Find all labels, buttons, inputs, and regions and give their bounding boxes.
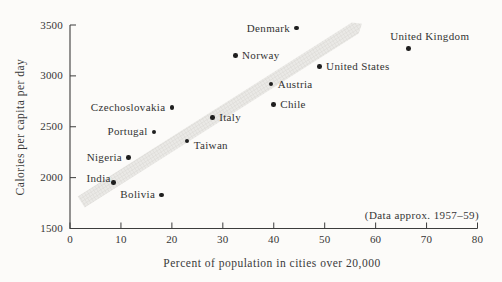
x-tick-label-20: 20 <box>166 233 177 246</box>
x-tick-label-60: 60 <box>370 233 381 246</box>
data-point-united-kingdom <box>406 46 411 51</box>
x-tick-label-70: 70 <box>421 233 432 246</box>
country-label-austria: Austria <box>278 78 313 91</box>
x-axis-title: Percent of population in cities over 20,… <box>163 257 380 269</box>
y-tick-label-1500: 1500 <box>40 222 63 235</box>
country-label-chile: Chile <box>280 98 306 111</box>
country-label-denmark: Denmark <box>247 22 290 35</box>
data-note: (Data approx. 1957–59) <box>365 209 479 221</box>
x-tick-label-0: 0 <box>67 233 73 246</box>
data-point-bolivia <box>159 193 164 198</box>
country-label-bolivia: Bolivia <box>120 188 155 201</box>
data-point-chile <box>271 102 276 107</box>
data-point-india <box>111 180 116 185</box>
data-point-italy <box>210 115 215 120</box>
y-tick-label-3500: 3500 <box>40 19 63 32</box>
x-tick-label-10: 10 <box>115 233 126 246</box>
scatter-figure: Calories per capita per day Percent of p… <box>0 0 502 282</box>
country-label-united-kingdom: United Kingdom <box>390 30 469 43</box>
x-tick-label-30: 30 <box>217 233 228 246</box>
data-point-czechoslovakia <box>170 105 175 110</box>
country-label-italy: Italy <box>219 111 241 124</box>
country-label-india: India <box>86 172 110 185</box>
country-label-taiwan: Taiwan <box>194 139 228 152</box>
data-point-norway <box>233 53 238 58</box>
y-axis-title: Calories per capita per day <box>14 59 26 196</box>
country-label-nigeria: Nigeria <box>87 151 122 164</box>
country-label-norway: Norway <box>242 49 280 62</box>
country-label-portugal: Portugal <box>107 125 147 138</box>
x-tick-label-50: 50 <box>319 233 330 246</box>
y-tick-label-2500: 2500 <box>40 120 63 133</box>
data-point-united-states <box>317 64 322 69</box>
y-tick-label-3000: 3000 <box>40 69 63 82</box>
data-point-nigeria <box>126 155 131 160</box>
y-tick-label-2000: 2000 <box>40 171 63 184</box>
x-tick-label-40: 40 <box>268 233 279 246</box>
x-tick-label-80: 80 <box>472 233 483 246</box>
country-label-united-states: United States <box>326 60 390 73</box>
country-label-czechoslovakia: Czechoslovakia <box>91 101 166 114</box>
